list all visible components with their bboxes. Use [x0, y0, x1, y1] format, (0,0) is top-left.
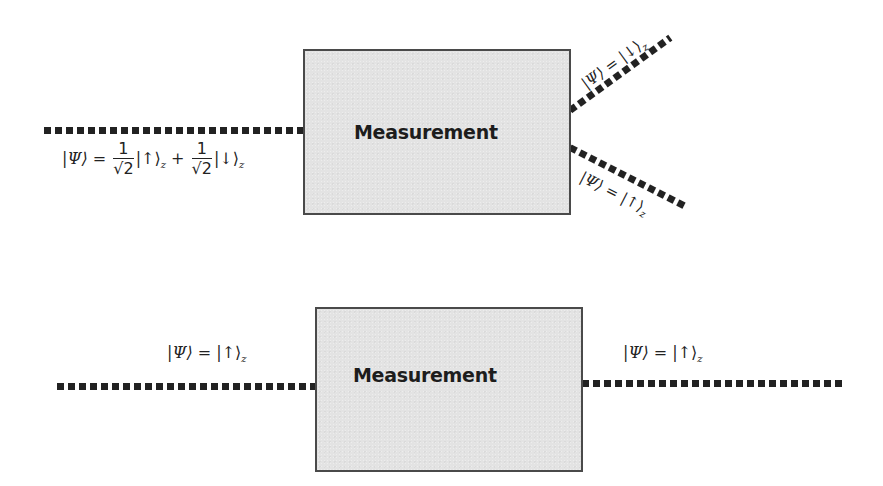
ket-down-subscript: z — [239, 159, 244, 170]
coefficient-1: 1 √2 — [113, 140, 133, 179]
top-input-beam — [44, 127, 306, 134]
coefficient-2-denominator: √2 — [192, 159, 212, 179]
bottom-measurement-box: Measurement — [315, 307, 583, 472]
coefficient-1-numerator: 1 — [113, 140, 133, 159]
top-output-down-state-label: |Ψ⟩ = |↑⟩z — [576, 168, 652, 220]
ket-subscript: z — [241, 353, 246, 364]
psi-ket-lhs: |Ψ⟩ = — [623, 343, 672, 362]
ket-up: |↑⟩ — [672, 343, 697, 362]
top-measurement-label: Measurement — [354, 121, 498, 143]
bottom-measurement-label: Measurement — [353, 364, 497, 386]
top-input-state-equation: |Ψ⟩ = 1 √2 |↑⟩z + 1 √2 |↓⟩z — [62, 140, 244, 179]
bottom-output-state-label: |Ψ⟩ = |↑⟩z — [623, 343, 703, 364]
bottom-input-beam — [57, 383, 317, 390]
top-measurement-box: Measurement — [303, 49, 571, 215]
bottom-input-state-label: |Ψ⟩ = |↑⟩z — [167, 343, 247, 364]
bottom-output-beam — [582, 380, 844, 387]
ket-subscript: z — [697, 353, 702, 364]
coefficient-2-numerator: 1 — [192, 140, 212, 159]
coefficient-2: 1 √2 — [192, 140, 212, 179]
ket-down: |↓⟩ — [214, 149, 239, 168]
psi-ket-lhs: |Ψ⟩ = — [167, 343, 216, 362]
ket-up: |↑⟩ — [216, 343, 241, 362]
psi-ket-lhs: |Ψ⟩ = — [62, 149, 111, 168]
plus-sign: + — [166, 149, 190, 168]
coefficient-1-denominator: √2 — [113, 159, 133, 179]
ket-up: |↑⟩ — [136, 149, 161, 168]
